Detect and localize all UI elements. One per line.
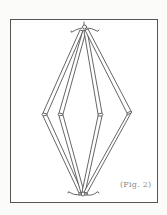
figure-caption: (Fig. 2) [120, 180, 151, 189]
bottom-string-knot [68, 192, 99, 196]
